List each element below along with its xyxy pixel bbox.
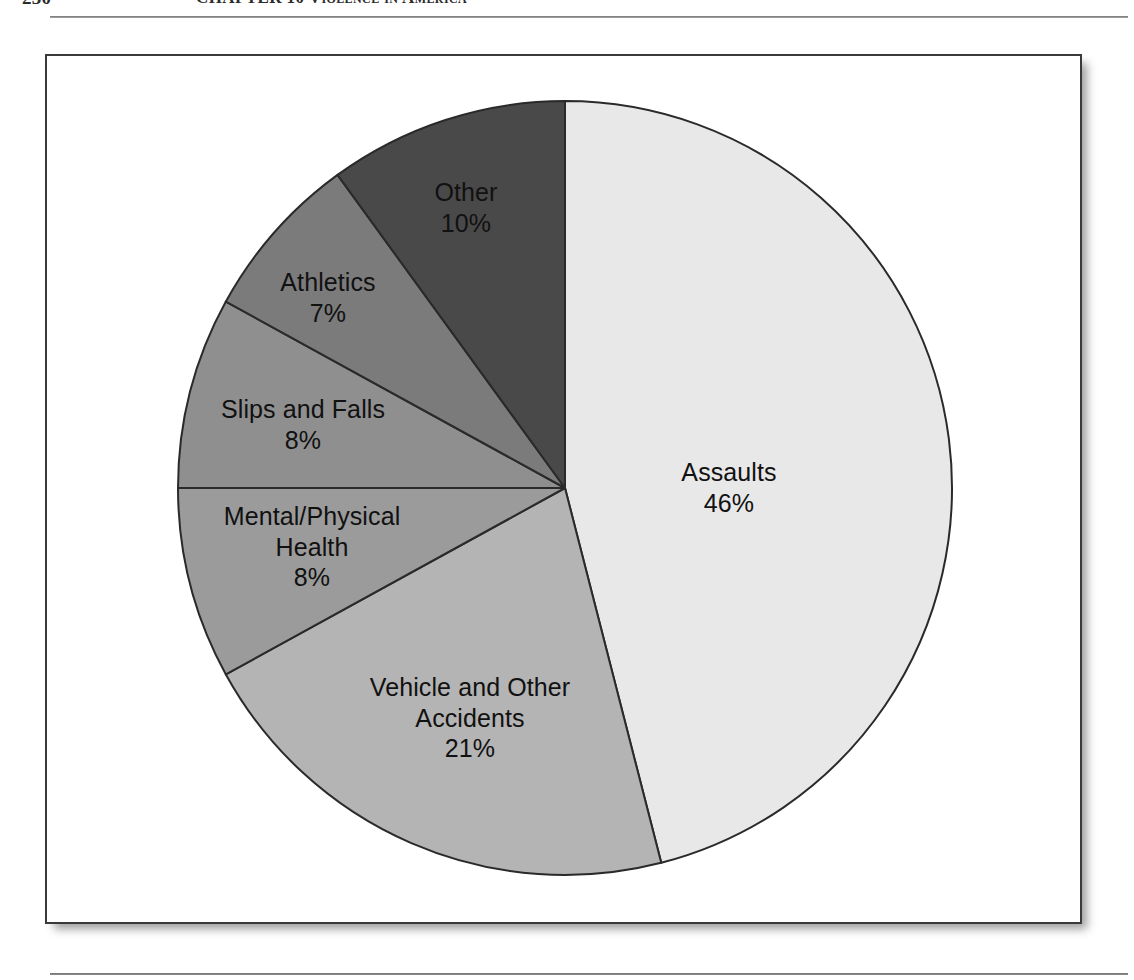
pie-slice-label-name: Athletics [280,268,375,296]
pie-slice-label: Athletics7% [280,267,375,328]
pie-slice-label: Mental/Physical Health8% [224,501,401,593]
pie-slice-label: Vehicle and Other Accidents21% [370,672,570,764]
pie-slice-label: Assaults46% [681,457,776,518]
pie-slice-label-value: 10% [434,207,497,238]
figure-frame [45,54,1082,924]
pie-slice-label-value: 7% [280,297,375,328]
page-number: 230 [22,0,51,9]
chapter-running-title: CHAPTER 10 Violence in America [196,0,467,8]
pie-slice-label-name: Vehicle and Other Accidents [370,673,570,732]
pie-slice-label: Slips and Falls8% [221,394,385,455]
pie-slice-label-value: 46% [681,487,776,518]
header-rule [50,16,1128,18]
pie-slice-label-name: Mental/Physical Health [224,502,401,561]
page-running-head-inner: 230 CHAPTER 10 Violence in America [0,0,1134,13]
pie-slice-label-value: 21% [370,733,570,764]
pie-slice-label-name: Slips and Falls [221,395,385,423]
page-running-head: 230 CHAPTER 10 Violence in America [0,0,1134,14]
footer-rule [50,973,1128,975]
pie-slice-label-name: Other [434,178,497,206]
pie-slice-label: Other10% [434,177,497,238]
pie-slice-label-value: 8% [221,424,385,455]
pie-slice-label-name: Assaults [681,458,776,486]
pie-slice-label-value: 8% [224,562,401,593]
